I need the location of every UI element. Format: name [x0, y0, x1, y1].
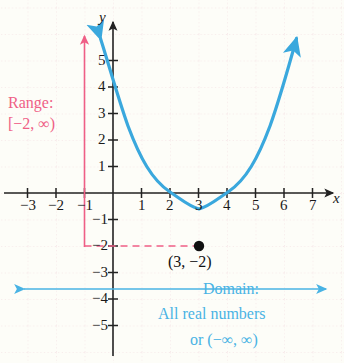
x-tick-label--1: −1 — [77, 198, 93, 213]
domain-label-line2: All real numbers — [158, 306, 266, 322]
x-axis-label: x — [333, 191, 340, 206]
vertex-point — [194, 241, 204, 251]
y-tick-label--1: −1 — [92, 212, 108, 227]
y-tick-label--2: −2 — [92, 238, 108, 253]
domain-label-line1: Domain: — [203, 281, 259, 297]
x-tick-label-2: 2 — [166, 198, 174, 213]
y-tick-label-2: 2 — [98, 132, 106, 147]
y-tick-label--5: −5 — [92, 318, 108, 333]
range-label-line2: [−2, ∞) — [8, 116, 55, 132]
x-tick-label--3: −3 — [20, 198, 36, 213]
x-tick-label-6: 6 — [280, 198, 288, 213]
x-tick-label-3: 3 — [195, 198, 203, 213]
x-tick-label-7: 7 — [309, 198, 317, 213]
x-tick-label-4: 4 — [223, 198, 231, 213]
y-tick-label-1: 1 — [98, 159, 106, 174]
y-tick-label--4: −4 — [92, 291, 108, 306]
x-tick-label-5: 5 — [252, 198, 260, 213]
domain-label-line3: or (−∞, ∞) — [190, 332, 258, 348]
y-tick-label-5: 5 — [98, 53, 106, 68]
y-axis-label: y — [99, 10, 106, 25]
y-tick-label-4: 4 — [98, 79, 106, 94]
x-tick-label--2: −2 — [48, 198, 64, 213]
graph-figure: −3 −2 −1 1 2 3 4 5 6 7 5 4 3 2 1 −1 −2 −… — [0, 0, 344, 363]
x-tick-label-1: 1 — [138, 198, 146, 213]
range-label-line1: Range: — [8, 95, 53, 111]
vertex-label: (3, −2) — [168, 254, 212, 270]
y-tick-label-3: 3 — [98, 106, 106, 121]
y-tick-label--3: −3 — [92, 265, 108, 280]
